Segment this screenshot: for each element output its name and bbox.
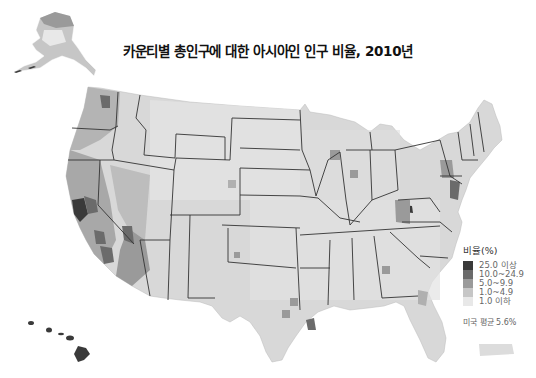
legend-swatch bbox=[463, 297, 473, 306]
contiguous-us bbox=[66, 87, 502, 362]
legend-swatch bbox=[463, 261, 473, 270]
alaska bbox=[14, 12, 96, 76]
legend-title: 비율(%) bbox=[463, 243, 536, 257]
legend-swatch bbox=[463, 270, 473, 279]
map-legend: 비율(%) 25.0 이상 10.0~24.9 5.0~9.9 1.0~4.9 … bbox=[463, 243, 536, 327]
puerto-rico bbox=[479, 344, 514, 356]
us-average-note: 미국 평균 5.6% bbox=[463, 316, 536, 327]
choropleth-map bbox=[0, 0, 536, 378]
legend-swatch bbox=[463, 279, 473, 288]
hawaii bbox=[28, 321, 90, 362]
legend-swatch bbox=[463, 288, 473, 297]
legend-label: 1.0 이하 bbox=[479, 297, 511, 306]
legend-item: 1.0 이하 bbox=[463, 297, 536, 306]
